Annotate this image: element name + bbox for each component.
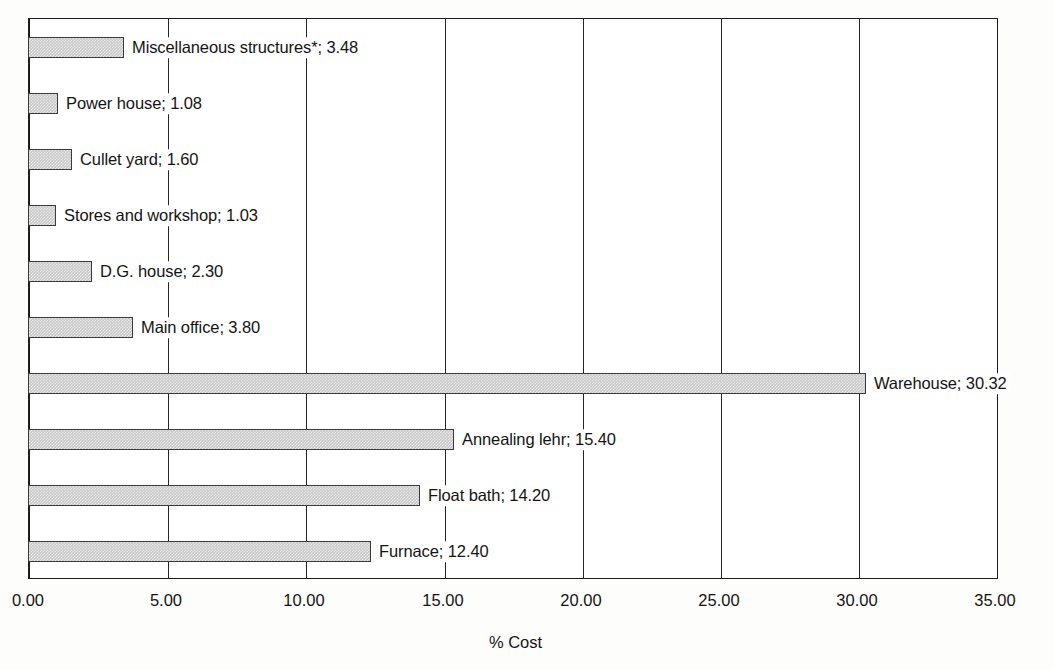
- x-tick-label-25: 25.00: [698, 592, 739, 609]
- x-axis-title-text: % Cost: [489, 634, 542, 651]
- bar-miscellaneous-structures[interactable]: [28, 37, 124, 58]
- x-tick-label-30: 30.00: [836, 592, 877, 609]
- x-tick-label-10: 10.00: [283, 592, 324, 609]
- bar-data-label: Float bath; 14.20: [424, 485, 553, 507]
- bar-stores-and-workshop[interactable]: [28, 205, 56, 226]
- x-tick-label-5: 5.00: [150, 592, 182, 609]
- bar-cullet-yard[interactable]: [28, 149, 72, 170]
- bar-data-label: Stores and workshop; 1.03: [60, 205, 261, 227]
- bar-data-label: Power house; 1.08: [62, 93, 205, 115]
- x-axis-title: % Cost: [0, 634, 1053, 651]
- bar-main-office[interactable]: [28, 317, 133, 338]
- bar-warehouse[interactable]: [28, 373, 866, 394]
- bar-data-label: Main office; 3.80: [137, 317, 263, 339]
- bar-data-label: D.G. house; 2.30: [96, 261, 226, 283]
- x-tick-label-0: 0.00: [12, 592, 44, 609]
- bar-series: Miscellaneous structures*; 3.48 Power ho…: [28, 18, 995, 577]
- bar-data-label: Warehouse; 30.32: [870, 373, 1010, 395]
- bar-data-label: Annealing lehr; 15.40: [458, 429, 619, 451]
- bar-annealing-lehr[interactable]: [28, 429, 454, 450]
- bar-power-house[interactable]: [28, 93, 58, 114]
- x-tick-label-35: 35.00: [974, 592, 1015, 609]
- x-tick-label-15: 15.00: [422, 592, 463, 609]
- bar-chart: Miscellaneous structures*; 3.48 Power ho…: [0, 0, 1053, 670]
- bar-dg-house[interactable]: [28, 261, 92, 282]
- x-tick-label-20: 20.00: [560, 592, 601, 609]
- bar-float-bath[interactable]: [28, 485, 420, 506]
- bar-data-label: Miscellaneous structures*; 3.48: [128, 37, 361, 59]
- bar-data-label: Furnace; 12.40: [375, 541, 492, 563]
- bar-furnace[interactable]: [28, 541, 371, 562]
- bar-data-label: Cullet yard; 1.60: [76, 149, 201, 171]
